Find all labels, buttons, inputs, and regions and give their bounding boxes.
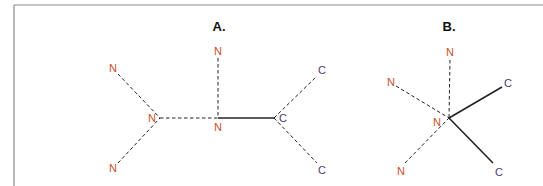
dashed-bond — [449, 60, 450, 118]
carbon-atom-label: C — [279, 112, 287, 124]
dashed-bond — [274, 118, 317, 163]
carbon-atom-label: C — [318, 164, 326, 176]
panel-label: B. — [443, 19, 456, 34]
nitrogen-atom-label: N — [433, 116, 441, 128]
panels-layer: NNCNNNCCA.NNNNCCB. — [109, 19, 512, 178]
nitrogen-atom-label: N — [397, 165, 405, 177]
nitrogen-atom-label: N — [446, 46, 454, 58]
carbon-atom-label: C — [504, 77, 512, 89]
panel-label: A. — [213, 19, 226, 34]
nitrogen-atom-label: N — [109, 162, 117, 174]
carbon-atom-label: C — [318, 64, 326, 76]
solid-bond — [449, 87, 502, 118]
panel-a: NNCNNNCCA. — [109, 19, 326, 176]
dashed-bond — [396, 86, 449, 118]
panel-b: NNNNCCB. — [387, 19, 512, 178]
solid-bond — [449, 118, 493, 163]
carbon-atom-label: C — [495, 166, 503, 178]
diagram-canvas: NNCNNNCCA.NNNNCCB. — [0, 0, 543, 186]
nitrogen-atom-label: N — [148, 112, 156, 124]
dashed-bond — [118, 118, 160, 163]
nitrogen-atom-label: N — [387, 76, 395, 88]
nitrogen-atom-label: N — [214, 45, 222, 57]
molecular-geometry-diagram: NNCNNNCCA.NNNNCCB. — [0, 0, 543, 186]
nitrogen-atom-label: N — [109, 62, 117, 74]
dashed-bond — [405, 118, 449, 163]
nitrogen-atom-label: N — [214, 121, 222, 133]
